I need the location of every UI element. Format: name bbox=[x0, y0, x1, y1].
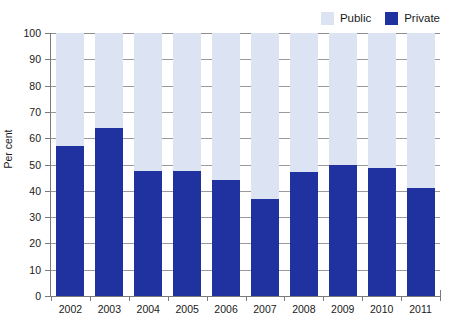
y-tick-label: 50 bbox=[0, 159, 41, 171]
legend-label-private: Private bbox=[404, 12, 440, 25]
y-tick-label: 70 bbox=[0, 106, 41, 118]
stacked-bar-chart: Public Private Per cent 1009080706050403… bbox=[0, 0, 453, 332]
bar-segment-public[interactable] bbox=[251, 33, 279, 199]
x-tick-mark bbox=[401, 296, 402, 301]
y-tick-mark bbox=[45, 112, 51, 113]
legend-swatch-private bbox=[385, 12, 398, 25]
bar-segment-public[interactable] bbox=[368, 33, 396, 168]
bar-group[interactable] bbox=[134, 33, 162, 296]
bar-group[interactable] bbox=[173, 33, 201, 296]
x-tick-label: 2003 bbox=[89, 303, 129, 315]
y-tick-label: 20 bbox=[0, 237, 41, 249]
x-tick-mark bbox=[284, 296, 285, 301]
bar-segment-public[interactable] bbox=[212, 33, 240, 180]
x-tick-mark bbox=[323, 296, 324, 301]
y-tick-mark bbox=[45, 86, 51, 87]
x-tick-mark bbox=[51, 296, 52, 301]
bar-segment-private[interactable] bbox=[329, 165, 357, 297]
y-tick-label: 10 bbox=[0, 264, 41, 276]
y-tick-mark bbox=[45, 165, 51, 166]
y-tick-label: 60 bbox=[0, 132, 41, 144]
y-tick-mark bbox=[45, 33, 51, 34]
bar-segment-public[interactable] bbox=[173, 33, 201, 171]
x-tick-mark bbox=[440, 296, 441, 301]
bar-group[interactable] bbox=[407, 33, 435, 296]
bar-group[interactable] bbox=[368, 33, 396, 296]
bar-segment-public[interactable] bbox=[290, 33, 318, 172]
x-tick-label: 2008 bbox=[284, 303, 324, 315]
x-tick-label: 2004 bbox=[128, 303, 168, 315]
bar-group[interactable] bbox=[329, 33, 357, 296]
x-tick-label: 2010 bbox=[362, 303, 402, 315]
bar-segment-private[interactable] bbox=[368, 168, 396, 296]
bar-segment-private[interactable] bbox=[173, 171, 201, 296]
x-tick-mark bbox=[90, 296, 91, 301]
x-tick-label: 2005 bbox=[167, 303, 207, 315]
bar-group[interactable] bbox=[95, 33, 123, 296]
y-tick-label: 30 bbox=[0, 211, 41, 223]
legend-item-private: Private bbox=[385, 12, 440, 25]
bar-segment-private[interactable] bbox=[251, 199, 279, 296]
y-tick-label: 80 bbox=[0, 80, 41, 92]
y-tick-mark bbox=[45, 138, 51, 139]
bar-segment-private[interactable] bbox=[56, 146, 84, 296]
x-tick-label: 2007 bbox=[245, 303, 285, 315]
y-tick-mark bbox=[45, 217, 51, 218]
bar-segment-private[interactable] bbox=[212, 180, 240, 296]
x-tick-mark bbox=[246, 296, 247, 301]
y-tick-label: 40 bbox=[0, 185, 41, 197]
x-tick-label: 2006 bbox=[206, 303, 246, 315]
bar-segment-private[interactable] bbox=[134, 171, 162, 296]
bar-segment-public[interactable] bbox=[407, 33, 435, 188]
bar-group[interactable] bbox=[56, 33, 84, 296]
y-tick-label: 0 bbox=[0, 290, 41, 302]
bar-segment-public[interactable] bbox=[95, 33, 123, 128]
bar-segment-public[interactable] bbox=[329, 33, 357, 165]
bar-segment-private[interactable] bbox=[95, 128, 123, 296]
bar-group[interactable] bbox=[290, 33, 318, 296]
legend-item-public: Public bbox=[321, 12, 371, 25]
bar-segment-public[interactable] bbox=[134, 33, 162, 171]
x-tick-mark bbox=[207, 296, 208, 301]
bar-group[interactable] bbox=[251, 33, 279, 296]
plot-area bbox=[51, 33, 440, 296]
y-tick-mark bbox=[45, 191, 51, 192]
x-tick-mark bbox=[362, 296, 363, 301]
x-tick-label: 2011 bbox=[401, 303, 441, 315]
x-tick-label: 2002 bbox=[50, 303, 90, 315]
y-tick-label: 100 bbox=[0, 27, 41, 39]
legend-label-public: Public bbox=[340, 12, 371, 25]
y-tick-mark bbox=[45, 270, 51, 271]
bar-segment-private[interactable] bbox=[407, 188, 435, 296]
y-axis-title: Per cent bbox=[2, 114, 14, 184]
bar-segment-private[interactable] bbox=[290, 172, 318, 296]
x-tick-mark bbox=[168, 296, 169, 301]
y-tick-label: 90 bbox=[0, 53, 41, 65]
chart-legend: Public Private bbox=[0, 8, 453, 28]
y-tick-mark bbox=[45, 59, 51, 60]
legend-swatch-public bbox=[321, 12, 334, 25]
bar-segment-public[interactable] bbox=[56, 33, 84, 146]
bar-group[interactable] bbox=[212, 33, 240, 296]
x-tick-mark bbox=[129, 296, 130, 301]
y-tick-mark bbox=[45, 243, 51, 244]
x-tick-label: 2009 bbox=[323, 303, 363, 315]
